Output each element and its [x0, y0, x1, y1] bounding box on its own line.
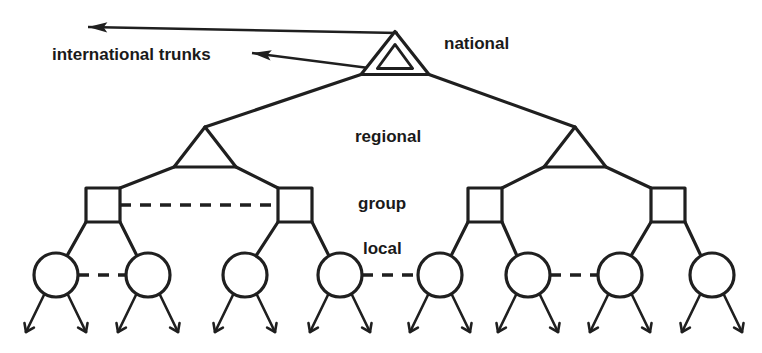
label-regional: regional [355, 127, 421, 146]
local-exchange-3-circle [223, 253, 267, 297]
local-exchange-6-circle [506, 253, 550, 297]
local-exchange-8-circle [690, 253, 734, 297]
local-exchange-7-circle [598, 253, 642, 297]
subscriber-line [410, 294, 429, 332]
hierarchy-edge [312, 222, 329, 256]
international-trunk-arrow-upper-line [88, 27, 398, 33]
hierarchy-edge [451, 222, 468, 256]
hierarchy-edge [429, 75, 575, 128]
group-exchange-3-square [468, 188, 502, 222]
group-exchange-1-square [86, 188, 120, 222]
subscriber-arrow-tick [275, 323, 277, 332]
label-national: national [444, 34, 509, 53]
hierarchy-edge [236, 167, 278, 188]
subscriber-line [539, 294, 558, 332]
network-hierarchy-diagram: international trunks national regional g… [0, 0, 762, 353]
hierarchy-edge [502, 167, 544, 188]
subscriber-line [631, 294, 650, 332]
subscriber-line [118, 294, 137, 332]
hierarchy-edge [67, 222, 86, 256]
subscriber-arrow-tick [178, 323, 180, 332]
subscriber-line [451, 294, 470, 332]
label-international-trunks: international trunks [52, 45, 211, 64]
subscriber-arrow-tick [370, 323, 372, 332]
subscriber-line [682, 294, 701, 332]
subscriber-arrow-tick [558, 323, 560, 332]
hierarchy-edge [120, 222, 137, 256]
subscriber-lines-group [24, 294, 743, 332]
group-exchange-4-square [651, 188, 685, 222]
network-diagram-canvas: international trunks national regional g… [0, 0, 762, 353]
subscriber-line [351, 294, 370, 332]
subscriber-line [498, 294, 517, 332]
hierarchy-edge [205, 75, 361, 128]
subscriber-arrow-tick [470, 323, 472, 332]
subscriber-arrow-tick [650, 323, 652, 332]
local-exchange-2-circle [126, 253, 170, 297]
local-exchange-5-circle [418, 253, 462, 297]
hierarchy-edge [256, 222, 278, 256]
regional-exchange-1-triangle [174, 127, 236, 167]
subscriber-line [310, 294, 329, 332]
subscriber-line [67, 294, 86, 332]
label-group: group [358, 194, 406, 213]
hierarchy-edge [606, 167, 651, 188]
subscriber-line [159, 294, 178, 332]
hierarchy-edge [120, 167, 174, 188]
subscriber-line [215, 294, 234, 332]
local-exchange-1-circle [34, 253, 78, 297]
subscriber-arrow-tick [86, 323, 88, 332]
subscriber-line [723, 294, 742, 332]
subscriber-arrow-tick [742, 323, 744, 332]
label-local: local [363, 239, 402, 258]
group-exchange-2-square [278, 188, 312, 222]
regional-exchange-2-triangle [544, 127, 606, 167]
local-exchange-4-circle [318, 253, 362, 297]
hierarchy-edge [631, 222, 651, 256]
subscriber-line [26, 294, 45, 332]
hierarchy-edge [685, 222, 701, 256]
subscriber-line [256, 294, 275, 332]
hierarchy-edge [502, 222, 517, 256]
subscriber-line [590, 294, 609, 332]
